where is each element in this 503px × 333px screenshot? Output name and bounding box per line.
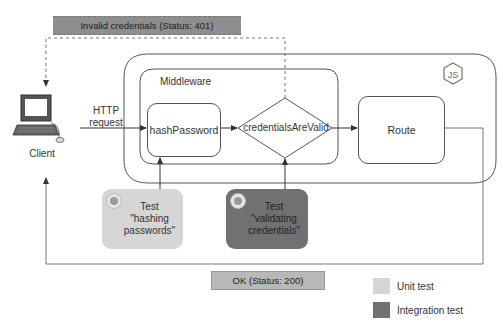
unit-test-card: Test "hashing passwords"	[102, 189, 183, 249]
request-label: request	[86, 117, 126, 129]
svg-text:JS: JS	[448, 70, 459, 80]
status-401-banner: Invalid credentials (Status: 401)	[53, 16, 241, 35]
test-line: Test	[244, 201, 304, 213]
test-line: Test	[120, 201, 179, 213]
legend-swatch-unit	[373, 278, 390, 294]
integration-test-card: Test "validating credentials"	[226, 189, 308, 249]
nodejs-icon: JS	[444, 63, 462, 84]
credentials-label: credentialsAreValid	[242, 122, 330, 133]
test-line: passwords"	[120, 225, 179, 237]
test-line: credentials"	[244, 225, 304, 237]
http-request-label: HTTP request	[86, 105, 126, 129]
test-line: "hashing	[120, 213, 179, 225]
status-200-banner: OK (Status: 200)	[211, 271, 325, 290]
test-line: "validating	[244, 213, 304, 225]
route-box: Route	[358, 96, 445, 164]
middleware-label: Middleware	[160, 76, 211, 87]
route-label: Route	[387, 124, 415, 136]
hash-password-box: hashPassword	[147, 103, 221, 157]
legend-swatch-integration	[373, 302, 390, 318]
computer-icon	[13, 95, 64, 143]
hash-password-label: hashPassword	[150, 124, 219, 136]
legend-label-integration: Integration test	[397, 305, 463, 316]
client-label: Client	[22, 148, 62, 160]
legend-label-unit: Unit test	[397, 281, 434, 292]
http-label: HTTP	[86, 105, 126, 117]
